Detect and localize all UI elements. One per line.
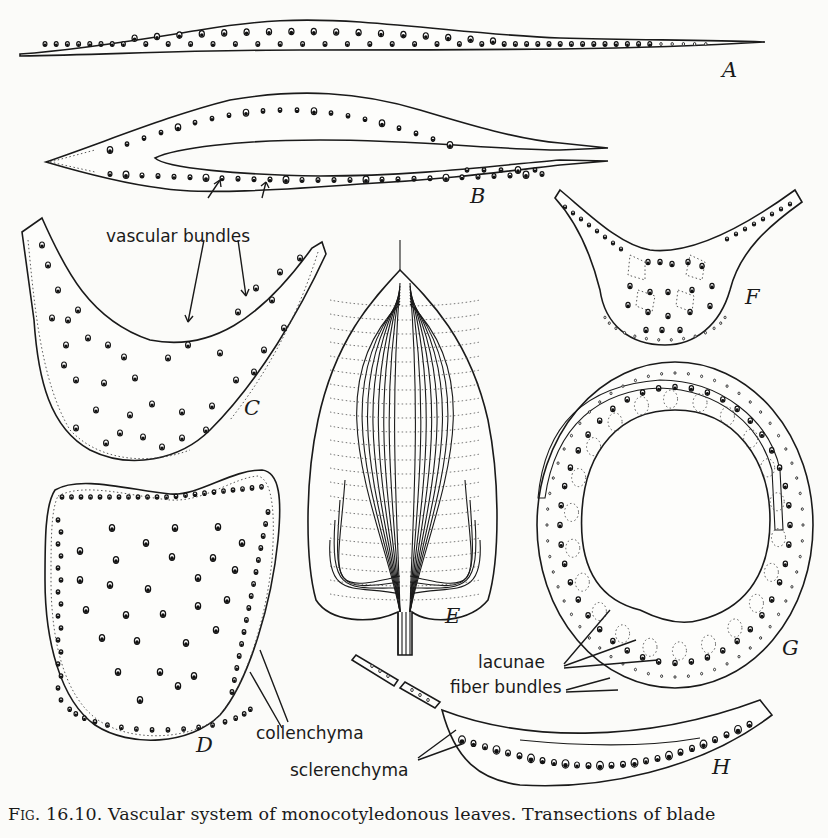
panel-label-f: F xyxy=(745,285,760,309)
annotation-vascular-bundles: vascular bundles xyxy=(106,226,250,246)
panel-e-leaf xyxy=(308,240,497,655)
panel-c-transection xyxy=(22,218,326,460)
panel-label-c: C xyxy=(244,396,260,420)
panel-label-d: D xyxy=(196,733,213,757)
panel-label-b: B xyxy=(470,184,485,208)
figure-illustration xyxy=(0,0,828,838)
annotation-lacunae: lacunae xyxy=(478,652,545,672)
panel-label-h: H xyxy=(712,755,730,779)
figure-caption: Fig. 16.10. Vascular system of monocotyl… xyxy=(8,804,820,824)
panel-f-transection xyxy=(555,190,802,345)
annotation-collenchyma: collenchyma xyxy=(256,723,364,743)
panel-d-transection xyxy=(45,470,280,740)
panel-label-e: E xyxy=(445,604,460,628)
annotation-sclerenchyma: sclerenchyma xyxy=(290,760,408,780)
panel-a-transection xyxy=(20,20,765,56)
figure-number: Fig. 16.10. xyxy=(8,804,102,824)
panel-b-transection xyxy=(46,93,608,191)
panel-label-g: G xyxy=(782,636,799,660)
panel-label-a: A xyxy=(722,58,737,82)
figure-caption-text: Vascular system of monocotyledonous leav… xyxy=(108,804,715,824)
annotation-fiber-bundles: fiber bundles xyxy=(450,677,562,697)
panel-g-transection xyxy=(537,362,813,688)
